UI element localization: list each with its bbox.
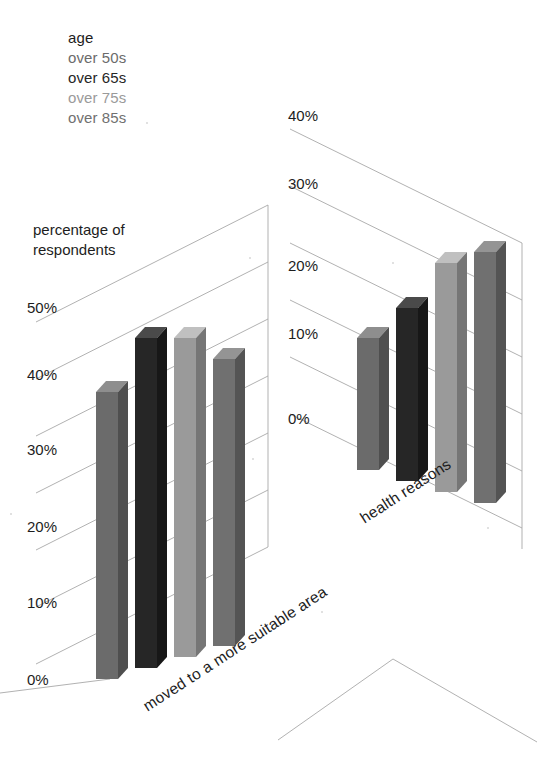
left-tick-50: 50% [27, 299, 57, 316]
legend-item-over-85s: over 85s [68, 108, 126, 128]
bar-left-over-85s [213, 348, 245, 646]
left-tick-20: 20% [27, 518, 57, 535]
texture-speck [146, 122, 148, 124]
legend-title: age [68, 28, 126, 48]
legend-label-over-50s: over 50s [68, 49, 126, 66]
texture-speck [249, 257, 251, 259]
left-tick-40: 40% [27, 366, 57, 383]
bar-right-over-65s [396, 297, 428, 481]
floor-outline [0, 659, 537, 742]
y-axis-title-line1: percentage of [33, 220, 183, 240]
bar-right-over-50s [357, 327, 389, 470]
chart-root: age over 50s over 65s over 75s over 85s … [0, 0, 553, 772]
y-axis-title-line2: respondents [33, 240, 183, 260]
texture-speck [487, 527, 489, 529]
texture-speck [321, 611, 323, 613]
texture-speck [252, 458, 254, 460]
legend-label-over-85s: over 85s [68, 109, 126, 126]
bar-right-over-85s [474, 241, 506, 503]
right-tick-30: 30% [288, 175, 318, 192]
legend: age over 50s over 65s over 75s over 85s [68, 28, 126, 128]
left-tick-10: 10% [27, 594, 57, 611]
bar-left-over-65s [135, 327, 167, 668]
bar-left-over-50s [96, 381, 128, 679]
legend-item-over-65s: over 65s [68, 68, 126, 88]
right-tick-20: 20% [288, 257, 318, 274]
right-tick-10: 10% [288, 325, 318, 342]
bar-right-over-75s [435, 252, 467, 492]
y-axis-title: percentage of respondents [33, 220, 183, 259]
legend-item-over-75s: over 75s [68, 88, 126, 108]
right-tick-0: 0% [288, 410, 310, 427]
right-tick-40: 40% [288, 107, 318, 124]
left-tick-0: 0% [27, 671, 49, 688]
texture-speck [10, 513, 12, 515]
legend-item-over-50s: over 50s [68, 48, 126, 68]
texture-speck [392, 262, 394, 264]
legend-label-over-75s: over 75s [68, 89, 126, 106]
bar-left-over-75s [174, 327, 206, 657]
left-tick-30: 30% [27, 441, 57, 458]
legend-label-over-65s: over 65s [68, 69, 126, 86]
